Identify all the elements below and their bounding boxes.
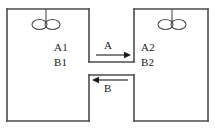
right-vessel-label-b2: B2: [141, 57, 154, 68]
left-vessel-label-a1: A1: [54, 42, 68, 53]
left-vessel-label-b1: B1: [54, 57, 67, 68]
right-vessel-label-a2: A2: [141, 42, 155, 53]
stream-a-label: A: [104, 40, 112, 51]
right-impeller: [158, 9, 186, 30]
stream-b-label: B: [104, 83, 112, 94]
stream-a-arrow-head: [124, 52, 131, 58]
left-impeller: [32, 9, 60, 30]
left-vessel-walls: [7, 9, 89, 121]
stream-a-arrow: [96, 52, 131, 58]
diagram-canvas: A1 B1 A2 B2 A B: [0, 0, 215, 130]
vessel-outline-graphic: [0, 0, 215, 130]
stream-b-arrow-head: [92, 77, 99, 83]
